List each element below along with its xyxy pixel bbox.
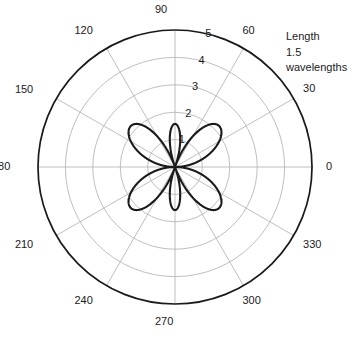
angle-label-0: 0	[326, 161, 332, 172]
angle-label-150: 150	[15, 84, 33, 95]
angle-label-30: 30	[303, 83, 315, 94]
radial-label-1: 1	[179, 134, 185, 145]
angle-label-300: 300	[243, 295, 261, 306]
angle-label-330: 330	[303, 239, 321, 250]
radial-label-4: 4	[199, 55, 205, 66]
angle-label-60: 60	[243, 25, 255, 36]
polar-radiation-pattern-figure: 0306090120150180210240270300330 12345 Le…	[0, 0, 359, 340]
annotation-line-1: Length	[286, 29, 347, 45]
angle-label-270: 270	[155, 316, 173, 327]
annotation-line-2: 1.5	[286, 45, 347, 61]
radial-label-2: 2	[185, 108, 191, 119]
radial-label-3: 3	[192, 81, 198, 92]
angle-label-90: 90	[155, 4, 167, 15]
annotation-line-3: wavelengths	[286, 60, 347, 76]
angle-label-120: 120	[75, 25, 93, 36]
length-annotation: Length 1.5 wavelengths	[286, 29, 347, 76]
angle-label-210: 210	[15, 239, 33, 250]
angle-label-180: 180	[0, 161, 10, 172]
angle-label-240: 240	[75, 295, 93, 306]
radial-label-5: 5	[205, 28, 211, 39]
